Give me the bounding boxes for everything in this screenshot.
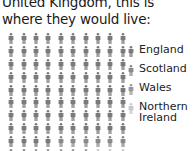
person-icon — [79, 46, 91, 59]
person-icon — [5, 85, 17, 98]
person-icon — [55, 110, 67, 123]
person-icon — [79, 97, 91, 110]
person-icon — [92, 110, 104, 123]
person-icon — [79, 33, 91, 46]
person-icon — [104, 46, 116, 59]
person-icon — [17, 85, 29, 98]
chart-title: United Kingdom, this is where they would… — [2, 0, 194, 28]
person-icon — [79, 85, 91, 98]
person-icon — [42, 72, 54, 85]
legend-item: England — [128, 44, 188, 57]
person-icon — [92, 123, 104, 136]
person-icon — [5, 110, 17, 123]
pictogram-grid — [5, 33, 129, 151]
person-icon — [30, 85, 42, 98]
person-icon — [55, 85, 67, 98]
person-icon — [67, 97, 79, 110]
person-icon — [30, 149, 42, 151]
person-icon — [92, 97, 104, 110]
legend-item: Scotland — [128, 63, 188, 76]
person-icon — [55, 97, 67, 110]
person-icon — [104, 149, 116, 151]
person-icon — [30, 72, 42, 85]
person-icon — [104, 33, 116, 46]
person-icon — [55, 149, 67, 151]
person-icon — [17, 149, 29, 151]
person-icon — [17, 123, 29, 136]
person-icon — [79, 123, 91, 136]
person-icon — [79, 110, 91, 123]
person-icon — [30, 123, 42, 136]
person-icon — [5, 149, 17, 151]
person-icon — [5, 97, 17, 110]
person-icon — [67, 149, 79, 151]
person-icon — [42, 149, 54, 151]
person-icon — [104, 72, 116, 85]
person-icon — [30, 110, 42, 123]
person-icon — [42, 136, 54, 149]
person-icon — [5, 123, 17, 136]
person-icon — [42, 59, 54, 72]
person-icon — [117, 149, 129, 151]
person-icon — [42, 123, 54, 136]
person-icon — [5, 136, 17, 149]
legend-label: Northern Ireland — [139, 101, 188, 123]
person-icon — [30, 59, 42, 72]
person-icon — [92, 136, 104, 149]
person-icon — [67, 110, 79, 123]
person-icon — [55, 46, 67, 59]
person-icon — [42, 46, 54, 59]
person-icon — [67, 72, 79, 85]
person-icon — [5, 59, 17, 72]
person-icon — [42, 33, 54, 46]
person-icon — [30, 46, 42, 59]
person-icon — [67, 33, 79, 46]
person-icon — [104, 110, 116, 123]
legend-label: England — [139, 44, 184, 55]
person-icon — [17, 72, 29, 85]
person-icon — [17, 136, 29, 149]
person-icon — [79, 149, 91, 151]
person-icon — [104, 123, 116, 136]
person-icon — [30, 97, 42, 110]
person-icon — [5, 46, 17, 59]
person-icon — [67, 123, 79, 136]
person-icon — [42, 97, 54, 110]
legend-item: Northern Ireland — [128, 101, 188, 123]
legend: EnglandScotlandWalesNorthern Ireland — [128, 44, 188, 129]
person-icon — [42, 110, 54, 123]
person-icon — [67, 46, 79, 59]
person-icon — [104, 136, 116, 149]
person-icon — [104, 59, 116, 72]
person-icon — [42, 85, 54, 98]
person-icon — [79, 72, 91, 85]
person-icon — [79, 136, 91, 149]
legend-item: Wales — [128, 82, 188, 95]
person-icon — [5, 33, 17, 46]
person-icon — [92, 33, 104, 46]
person-icon — [117, 136, 129, 149]
person-icon — [67, 136, 79, 149]
person-icon — [55, 123, 67, 136]
person-icon — [17, 110, 29, 123]
person-icon — [30, 33, 42, 46]
person-icon — [104, 97, 116, 110]
person-icon — [17, 46, 29, 59]
person-icon — [17, 33, 29, 46]
person-icon — [55, 59, 67, 72]
person-icon — [104, 85, 116, 98]
person-icon — [55, 136, 67, 149]
person-icon — [92, 72, 104, 85]
person-icon — [67, 59, 79, 72]
person-icon — [67, 85, 79, 98]
legend-label: Wales — [139, 82, 171, 93]
person-icon — [92, 149, 104, 151]
person-icon — [92, 59, 104, 72]
person-icon — [92, 85, 104, 98]
person-icon — [55, 33, 67, 46]
person-icon — [17, 59, 29, 72]
person-icon — [5, 72, 17, 85]
person-icon — [79, 59, 91, 72]
person-icon — [92, 46, 104, 59]
person-icon — [55, 72, 67, 85]
